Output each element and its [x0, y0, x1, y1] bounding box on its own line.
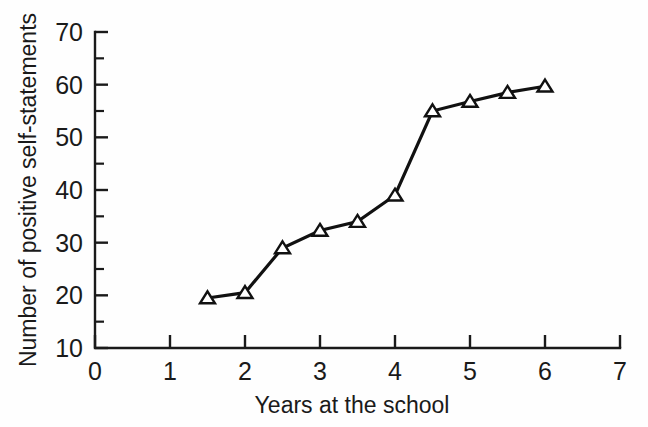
x-tick-label: 4 [388, 357, 402, 385]
x-axis-tick-labels: 01234567 [88, 357, 627, 385]
data-series [208, 86, 546, 298]
y-axis-tick-labels: 10203040506070 [55, 18, 83, 362]
y-tick-label: 70 [55, 18, 83, 46]
x-tick-label: 6 [538, 357, 552, 385]
x-tick-label: 1 [163, 357, 177, 385]
data-markers [200, 80, 552, 304]
axis-ticks [95, 32, 620, 348]
y-tick-label: 60 [55, 71, 83, 99]
data-point-marker [388, 189, 403, 201]
y-tick-label: 10 [55, 334, 83, 362]
x-tick-label: 5 [463, 357, 477, 385]
axis-spine [95, 32, 620, 348]
x-tick-label: 3 [313, 357, 327, 385]
chart-figure: 01234567 10203040506070 Years at the sch… [0, 0, 648, 427]
y-tick-label: 20 [55, 281, 83, 309]
y-tick-label: 30 [55, 229, 83, 257]
y-tick-label: 40 [55, 176, 83, 204]
line-chart: 01234567 10203040506070 Years at the sch… [0, 0, 648, 427]
axes [95, 32, 620, 348]
y-axis-title: Number of positive self-statements [15, 13, 41, 367]
x-tick-label: 7 [613, 357, 627, 385]
x-tick-label: 0 [88, 357, 102, 385]
x-axis-title: Years at the school [255, 392, 450, 418]
x-tick-label: 2 [238, 357, 252, 385]
y-tick-label: 50 [55, 123, 83, 151]
series-polyline [208, 86, 546, 298]
